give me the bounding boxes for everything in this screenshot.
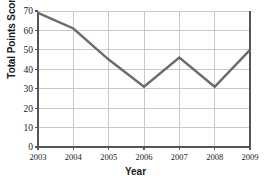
y-tick-label: 10 (24, 123, 34, 133)
vertical-gridlines (73, 11, 214, 147)
x-tick-label: 2004 (65, 152, 83, 162)
plot-area: 010203040506070 200320042005200620072008… (0, 0, 271, 187)
x-tick-label: 2006 (136, 152, 153, 162)
x-tick-label: 2008 (206, 152, 223, 162)
y-tick-labels: 010203040506070 (24, 6, 34, 152)
y-tick-label: 50 (24, 45, 34, 55)
y-tick-label: 70 (24, 6, 34, 16)
y-tick-label: 0 (28, 142, 33, 152)
y-tick-label: 30 (24, 84, 34, 94)
y-tick-label: 40 (24, 65, 34, 75)
x-tick-labels: 2003200420052006200720082009 (30, 152, 259, 162)
x-tick-label: 2009 (242, 152, 259, 162)
line-chart-figure: Total Points Scored Year 010203040506070… (0, 0, 271, 187)
y-tick-label: 20 (24, 104, 34, 114)
x-tick-label: 2005 (100, 152, 117, 162)
y-tick-label: 60 (24, 26, 34, 36)
x-tick-label: 2003 (30, 152, 47, 162)
x-tick-label: 2007 (171, 152, 188, 162)
